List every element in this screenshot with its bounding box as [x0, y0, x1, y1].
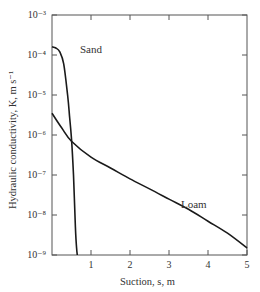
x-tick-label: 1	[89, 259, 94, 270]
loam-curve	[52, 113, 247, 248]
y-tick-label: 10⁻³	[28, 9, 46, 20]
x-tick-label: 4	[206, 259, 211, 270]
sand-series-label: Sand	[80, 43, 103, 55]
y-tick-label: 10⁻⁹	[27, 249, 46, 260]
y-tick-label: 10⁻⁷	[27, 169, 46, 180]
y-tick-label: 10⁻⁶	[27, 129, 46, 140]
x-axis-label: Suction, s, m	[120, 276, 175, 287]
y-axis-label: Hydraulic conductivity, K, m s⁻¹	[7, 71, 18, 209]
y-tick-label: 10⁻⁴	[27, 49, 46, 60]
sand-curve	[52, 47, 77, 255]
y-tick-label: 10⁻⁸	[27, 209, 46, 220]
y-axis-ticks: 10⁻⁹10⁻⁸10⁻⁷10⁻⁶10⁻⁵10⁻⁴10⁻³	[27, 9, 247, 260]
x-tick-label: 5	[245, 259, 250, 270]
x-tick-label: 2	[128, 259, 133, 270]
y-tick-label: 10⁻⁵	[27, 89, 46, 100]
loam-series-label: Loam	[181, 198, 207, 210]
hydraulic-conductivity-chart: 12345 10⁻⁹10⁻⁸10⁻⁷10⁻⁶10⁻⁵10⁻⁴10⁻³ Sand …	[0, 0, 260, 292]
x-tick-label: 3	[167, 259, 172, 270]
data-series	[52, 47, 247, 255]
